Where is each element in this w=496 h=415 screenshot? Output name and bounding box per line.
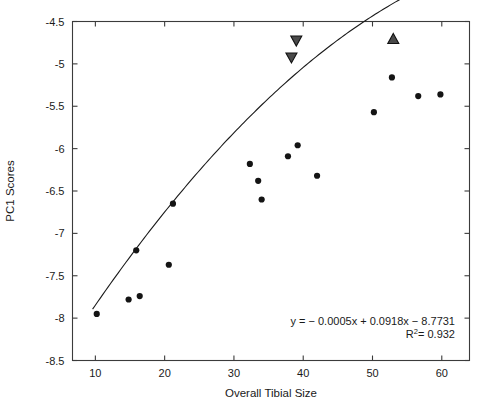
y-tick-label: -8 bbox=[55, 312, 65, 324]
plot-canvas: 102030405060 -8.5-8-7.5-7-6.5-6-5.5-5-4.… bbox=[0, 0, 496, 415]
data-point bbox=[415, 93, 421, 99]
data-point bbox=[285, 153, 291, 159]
data-point bbox=[259, 196, 265, 202]
figure-background bbox=[0, 0, 496, 415]
x-axis-title: Overall Tibial Size bbox=[225, 387, 317, 399]
data-point bbox=[247, 161, 253, 167]
data-point bbox=[166, 262, 172, 268]
y-axis-title: PC1 Scores bbox=[4, 160, 16, 222]
r-squared-annotation: R2= 0.932 bbox=[406, 327, 455, 340]
y-tick-label: -5 bbox=[55, 58, 65, 70]
y-tick-label: -6 bbox=[55, 143, 65, 155]
y-tick-label: -7 bbox=[55, 227, 65, 239]
y-tick-label: -6.5 bbox=[46, 185, 65, 197]
x-tick-label: 20 bbox=[159, 367, 171, 379]
data-point bbox=[314, 173, 320, 179]
x-tick-label: 10 bbox=[89, 367, 101, 379]
data-point bbox=[371, 109, 377, 115]
data-point bbox=[137, 293, 143, 299]
y-tick-label: -5.5 bbox=[46, 100, 65, 112]
regression-equation: y = − 0.0005x + 0.0918x − 8.7731 bbox=[290, 315, 455, 327]
r-squared-value: = 0.932 bbox=[418, 328, 455, 340]
data-point bbox=[94, 311, 100, 317]
data-point bbox=[295, 142, 301, 148]
r-squared-symbol: R bbox=[406, 328, 414, 340]
y-tick-label: -8.5 bbox=[46, 355, 65, 367]
data-point bbox=[389, 74, 395, 80]
data-point bbox=[170, 201, 176, 207]
data-point bbox=[133, 247, 139, 253]
y-tick-label: -7.5 bbox=[46, 270, 65, 282]
data-point bbox=[126, 296, 132, 302]
scatter-plot-figure: 102030405060 -8.5-8-7.5-7-6.5-6-5.5-5-4.… bbox=[0, 0, 496, 415]
y-tick-label: -4.5 bbox=[46, 16, 65, 28]
data-point bbox=[437, 91, 443, 97]
x-tick-label: 60 bbox=[436, 367, 448, 379]
data-point bbox=[255, 178, 261, 184]
x-tick-label: 50 bbox=[366, 367, 378, 379]
x-tick-label: 30 bbox=[228, 367, 240, 379]
x-tick-label: 40 bbox=[297, 367, 309, 379]
